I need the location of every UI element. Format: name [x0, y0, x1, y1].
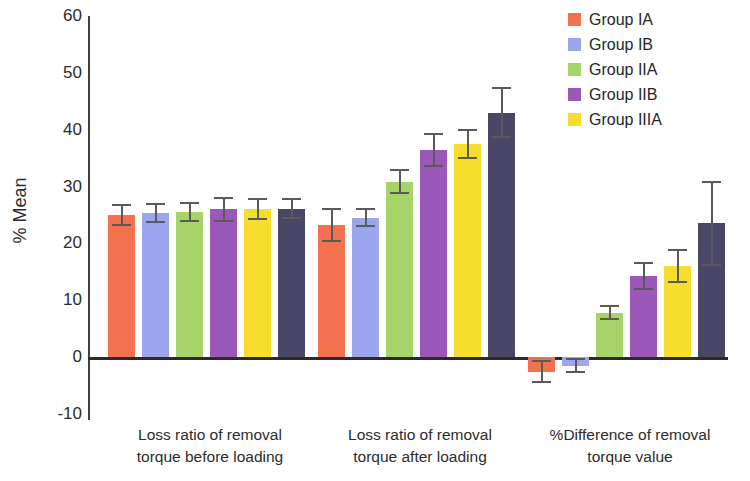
error-bar-cap-top — [702, 181, 721, 183]
legend-item[interactable]: Group IB — [568, 33, 748, 56]
error-bar — [424, 133, 443, 167]
error-bar-cap-bottom — [146, 221, 165, 223]
bar — [176, 212, 203, 357]
y-tick-label: 60 — [30, 7, 82, 24]
error-bar-cap-bottom — [566, 371, 585, 373]
bar — [244, 209, 271, 357]
legend-label: Group IIB — [589, 86, 657, 104]
error-bar-cap-top — [322, 208, 341, 210]
error-bar-cap-top — [566, 358, 585, 360]
error-bar-cap-top — [112, 204, 131, 206]
y-axis-title: % Mean — [10, 151, 31, 271]
error-bar-cap-top — [180, 202, 199, 204]
error-bar — [566, 358, 585, 373]
x-axis-category-labels: Loss ratio of removaltorque before loadi… — [90, 424, 728, 481]
y-tick-label: 30 — [30, 178, 82, 195]
bar-group — [318, 16, 522, 420]
error-bar-cap-bottom — [356, 225, 375, 227]
error-bar-cap-top — [390, 169, 409, 171]
bar — [318, 225, 345, 357]
error-bar-stem — [121, 204, 123, 227]
error-bar-stem — [541, 360, 543, 383]
legend-label: Group IIIA — [589, 111, 662, 129]
y-tick-label: 40 — [30, 121, 82, 138]
error-bar-cap-bottom — [702, 264, 721, 266]
legend: Group IAGroup IBGroup IIAGroup IIBGroup … — [568, 8, 748, 133]
category-label-line: Loss ratio of removal — [306, 424, 534, 446]
error-bar — [532, 360, 551, 383]
error-bar-cap-top — [214, 197, 233, 199]
error-bar — [390, 169, 409, 194]
error-bar-stem — [433, 133, 435, 167]
error-bar-cap-top — [600, 305, 619, 307]
legend-label: Group IIA — [589, 61, 657, 79]
bar — [142, 213, 169, 357]
error-bar — [214, 197, 233, 222]
error-bar — [248, 198, 267, 220]
error-bar-cap-bottom — [390, 192, 409, 194]
category-label: Loss ratio of removaltorque before loadi… — [96, 424, 324, 469]
error-bar-stem — [467, 129, 469, 159]
error-bar-stem — [711, 181, 713, 266]
error-bar-cap-bottom — [668, 281, 687, 283]
error-bar-cap-bottom — [248, 218, 267, 220]
error-bar-stem — [291, 198, 293, 220]
error-bar — [282, 198, 301, 220]
category-label-line: torque after loading — [306, 446, 534, 468]
legend-swatch-icon — [568, 113, 581, 126]
bar-group — [108, 16, 312, 420]
error-bar-cap-top — [532, 360, 551, 362]
error-bar-cap-top — [424, 133, 443, 135]
error-bar — [600, 305, 619, 320]
bar — [386, 182, 413, 357]
error-bar — [634, 262, 653, 290]
error-bar-stem — [223, 197, 225, 222]
error-bar-cap-bottom — [180, 220, 199, 222]
bar — [108, 215, 135, 357]
legend-swatch-icon — [568, 13, 581, 26]
legend-label: Group IA — [589, 11, 653, 29]
error-bar-cap-bottom — [634, 288, 653, 290]
error-bar — [702, 181, 721, 266]
y-tick-label: 10 — [30, 291, 82, 308]
legend-swatch-icon — [568, 38, 581, 51]
error-bar-cap-bottom — [600, 318, 619, 320]
error-bar — [180, 202, 199, 221]
error-bar — [112, 204, 131, 227]
error-bar — [668, 249, 687, 283]
error-bar — [356, 208, 375, 227]
error-bar-cap-bottom — [282, 217, 301, 219]
error-bar-cap-top — [282, 198, 301, 200]
error-bar-cap-top — [146, 203, 165, 205]
error-bar-cap-bottom — [532, 381, 551, 383]
legend-item[interactable]: Group IIA — [568, 58, 748, 81]
bar — [420, 150, 447, 357]
y-tick-label: 20 — [30, 234, 82, 251]
error-bar-cap-top — [458, 129, 477, 131]
category-label-line: torque before loading — [96, 446, 324, 468]
error-bar-cap-bottom — [112, 224, 131, 226]
error-bar-stem — [257, 198, 259, 220]
error-bar-stem — [331, 208, 333, 242]
category-label-line: Loss ratio of removal — [96, 424, 324, 446]
y-tick-label: -10 — [30, 405, 82, 422]
legend-swatch-icon — [568, 63, 581, 76]
legend-item[interactable]: Group IIIA — [568, 108, 748, 131]
error-bar — [146, 203, 165, 223]
error-bar-cap-top — [248, 198, 267, 200]
error-bar — [492, 87, 511, 138]
error-bar-stem — [677, 249, 679, 283]
error-bar-stem — [399, 169, 401, 194]
legend-label: Group IB — [589, 36, 653, 54]
error-bar — [458, 129, 477, 159]
error-bar-stem — [643, 262, 645, 290]
category-label-line: %Difference of removal — [516, 424, 744, 446]
bar — [488, 113, 515, 357]
error-bar-cap-bottom — [214, 220, 233, 222]
error-bar-cap-bottom — [492, 136, 511, 138]
bar — [352, 218, 379, 357]
legend-item[interactable]: Group IIB — [568, 83, 748, 106]
y-tick-label: 50 — [30, 64, 82, 81]
legend-item[interactable]: Group IA — [568, 8, 748, 31]
error-bar-cap-bottom — [458, 157, 477, 159]
